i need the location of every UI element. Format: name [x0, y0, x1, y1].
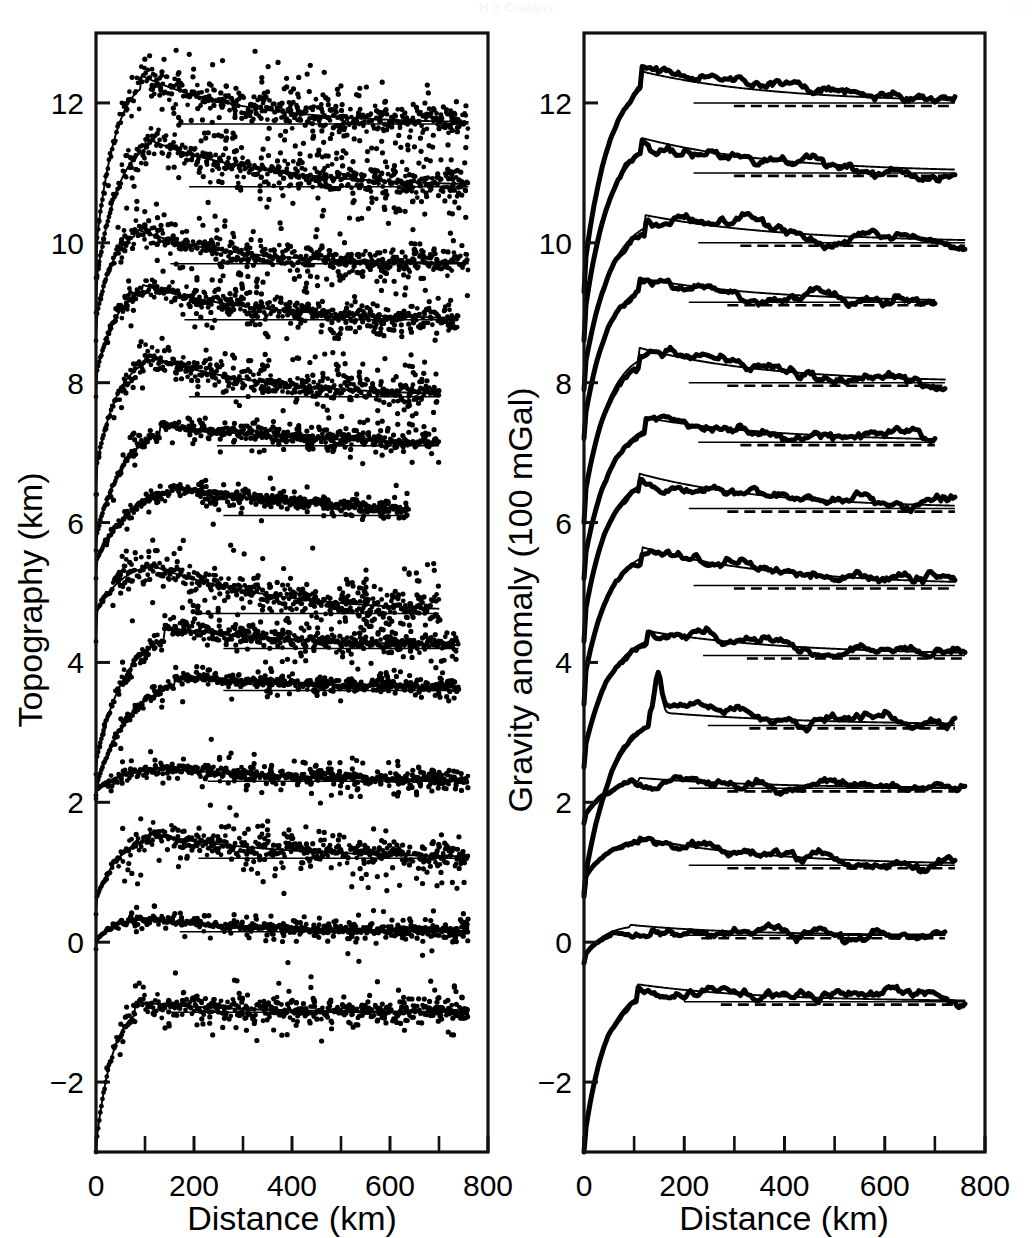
data-point — [345, 301, 350, 306]
data-point — [441, 104, 446, 109]
data-point — [232, 149, 237, 154]
data-point — [159, 73, 164, 78]
data-point — [325, 595, 330, 600]
data-point — [345, 951, 350, 956]
data-point — [269, 931, 274, 936]
data-point — [277, 843, 282, 848]
data-point — [317, 915, 322, 920]
data-point — [297, 592, 302, 597]
data-point — [133, 983, 138, 988]
data-point — [259, 80, 264, 85]
data-point — [359, 115, 364, 120]
data-point — [105, 166, 110, 171]
data-point — [308, 274, 313, 279]
data-point — [257, 857, 262, 862]
data-point — [308, 985, 313, 990]
data-point — [440, 670, 445, 675]
data-point — [266, 153, 271, 158]
data-point — [154, 564, 159, 569]
data-point — [407, 623, 412, 628]
data-point — [149, 87, 154, 92]
data-point — [171, 632, 176, 637]
data-point — [430, 599, 435, 604]
data-point — [237, 836, 242, 841]
data-point — [334, 156, 339, 161]
data-point — [447, 645, 452, 650]
data-point — [227, 291, 232, 296]
data-point — [322, 838, 327, 843]
data-point — [238, 271, 243, 276]
data-point — [265, 117, 270, 122]
data-point — [203, 478, 208, 483]
data-point — [436, 583, 441, 588]
data-point — [172, 132, 177, 137]
data-point — [149, 362, 154, 367]
data-point — [388, 770, 393, 775]
data-point — [334, 678, 339, 683]
data-point — [126, 148, 131, 153]
data-point — [221, 153, 226, 158]
data-point — [414, 250, 419, 255]
data-point — [203, 135, 208, 140]
data-point — [215, 242, 220, 247]
data-point — [293, 591, 298, 596]
data-point — [279, 860, 284, 865]
data-point — [456, 834, 461, 839]
data-point — [343, 426, 348, 431]
data-point — [422, 312, 427, 317]
data-point — [176, 834, 181, 839]
data-point — [365, 418, 370, 423]
data-point — [417, 650, 422, 655]
data-point — [348, 512, 353, 517]
data-point — [166, 1021, 171, 1026]
data-point — [244, 783, 249, 788]
data-point — [405, 1018, 410, 1023]
data-point — [436, 845, 441, 850]
data-point — [212, 595, 217, 600]
data-point — [177, 546, 182, 551]
data-point — [374, 279, 379, 284]
data-point — [171, 111, 176, 116]
data-point — [243, 166, 248, 171]
data-point — [249, 500, 254, 505]
scientific-figure: −2024681012 0200400600800 Distance (km) … — [0, 0, 1033, 1238]
data-point — [353, 329, 358, 334]
data-point — [443, 1000, 448, 1005]
data-point — [396, 515, 401, 520]
data-point — [441, 658, 446, 663]
data-point — [131, 308, 136, 313]
data-point — [394, 445, 399, 450]
data-point — [187, 432, 192, 437]
data-point — [412, 144, 417, 149]
data-point — [253, 913, 258, 918]
data-point — [419, 123, 424, 128]
data-point — [368, 254, 373, 259]
data-point — [391, 377, 396, 382]
data-point — [416, 1020, 421, 1025]
data-point — [160, 780, 165, 785]
data-point — [416, 866, 421, 871]
data-point — [261, 879, 266, 884]
data-point — [245, 321, 250, 326]
data-point — [193, 288, 198, 293]
data-point — [437, 177, 442, 182]
data-point — [337, 586, 342, 591]
data-point — [112, 700, 117, 705]
data-point — [253, 628, 258, 633]
data-point — [311, 380, 316, 385]
data-point — [257, 94, 262, 99]
data-point — [323, 122, 328, 127]
data-point — [371, 301, 376, 306]
data-point — [226, 254, 231, 259]
data-point — [445, 861, 450, 866]
data-point — [224, 388, 229, 393]
data-point — [406, 996, 411, 1001]
data-point — [466, 930, 471, 935]
data-point — [167, 151, 172, 156]
data-point — [433, 612, 438, 617]
data-point — [183, 630, 188, 635]
data-point — [310, 446, 315, 451]
data-point — [280, 582, 285, 587]
data-point — [440, 116, 445, 121]
data-point — [249, 624, 254, 629]
